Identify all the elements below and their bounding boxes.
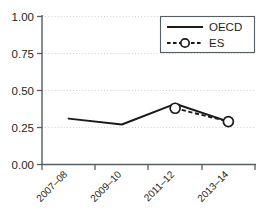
legend-label-es: ES	[209, 37, 225, 49]
y-tick-label-0-50: 0.50	[12, 85, 34, 97]
y-tick-label-0-00: 0.00	[12, 159, 34, 171]
data-point-marker	[223, 117, 233, 127]
legend-marker-es	[181, 39, 189, 47]
y-tick-label-1-00: 1.00	[12, 11, 34, 23]
data-point-marker	[170, 103, 180, 113]
line-chart: 1.00 0.75 0.50 0.25 0.00 2007–08 2009–10…	[0, 0, 259, 221]
legend-label-oecd: OECD	[209, 21, 242, 33]
y-tick-label-0-25: 0.25	[12, 122, 34, 134]
y-tick-label-0-75: 0.75	[12, 48, 34, 60]
legend: OECD ES	[161, 17, 255, 53]
